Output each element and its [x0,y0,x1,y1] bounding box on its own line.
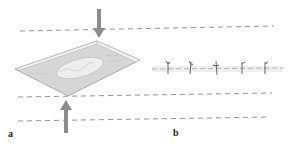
panel-a-sheet [15,41,140,96]
figure: a b [0,0,296,144]
down-arrow-icon [93,9,105,38]
upper-dashed-line [20,26,274,31]
panel-label-a: a [8,128,13,139]
panel-b-layer [152,61,284,75]
up-arrow-icon [60,100,72,133]
middle-dashed-line [18,93,272,97]
diagram-canvas [0,0,296,144]
panel-label-b: b [173,127,179,138]
lower-dashed-line [18,117,270,121]
